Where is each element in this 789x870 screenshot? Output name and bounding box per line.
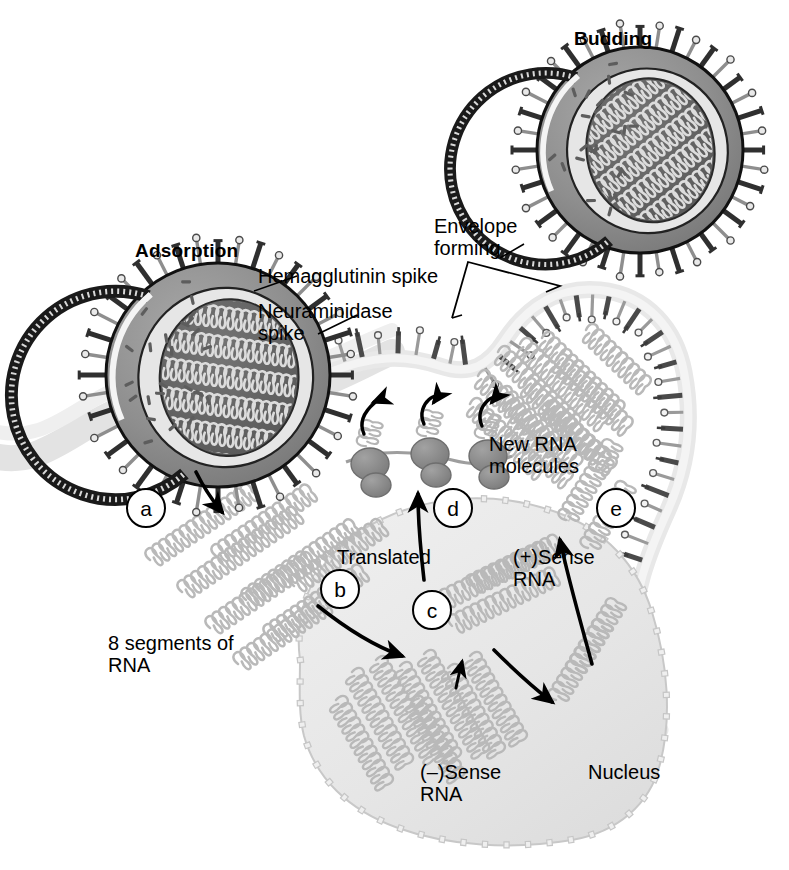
label-translated: Translated <box>337 546 431 568</box>
label-plus-sense-rna: (+)Sense RNA <box>513 546 595 591</box>
svg-text:c: c <box>427 599 438 622</box>
ribosome-mrna-complex <box>346 396 512 497</box>
step-circle-a: a <box>127 489 165 527</box>
label-minus-sense-rna: (–)Sense RNA <box>420 761 501 806</box>
label-neuraminidase-spike: Neuraminidase spike <box>258 300 393 345</box>
label-budding: Budding <box>574 28 652 49</box>
svg-text:d: d <box>447 497 459 520</box>
step-circle-d: d <box>434 489 472 527</box>
step-circle-b: b <box>321 570 359 608</box>
step-circle-c: c <box>413 591 451 629</box>
label-8-segments-rna: 8 segments of RNA <box>108 632 234 677</box>
svg-text:e: e <box>610 497 622 520</box>
replication-cycle-illustration: abcde <box>0 0 789 870</box>
svg-text:a: a <box>140 497 152 520</box>
label-hemagglutinin-spike: Hemagglutinin spike <box>258 265 438 287</box>
label-adsorption: Adsorption <box>135 240 238 261</box>
label-nucleus: Nucleus <box>588 761 660 783</box>
label-new-rna-molecules: New RNA molecules <box>489 433 579 478</box>
svg-text:b: b <box>334 578 346 601</box>
diagram-canvas: abcde Budding Adsorption Hemagglutinin s… <box>0 0 789 870</box>
step-circle-e: e <box>597 489 635 527</box>
label-envelope-forming: Envelope forming <box>434 215 517 260</box>
